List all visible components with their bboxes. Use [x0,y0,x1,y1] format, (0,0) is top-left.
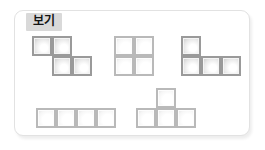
tetromino-cell [181,36,201,56]
tetromino-cell [52,36,72,56]
tetromino-cell [181,56,201,76]
tetromino-cell [32,36,52,56]
tetromino-cell [201,56,221,76]
tetromino-empty-cell [136,88,156,108]
tetromino-cell [56,108,76,128]
panel-tab-label: 보기 [26,13,62,31]
tetromino-cell [114,56,134,76]
tetromino-cell [76,108,96,128]
shape-s-tetromino [32,36,92,76]
tetromino-cell [221,56,241,76]
shape-j-tetromino [181,36,241,76]
tetromino-cell [134,36,154,56]
shape-t-tetromino [136,88,196,128]
diagram-canvas: 보기 [0,0,265,150]
tetromino-cell [136,108,156,128]
tetromino-cell [36,108,56,128]
tetromino-cell [176,108,196,128]
tetromino-cell [114,36,134,56]
shape-i-tetromino [36,108,116,128]
tetromino-cell [72,56,92,76]
tetromino-empty-cell [201,36,221,56]
tetromino-empty-cell [32,56,52,76]
shape-o-tetromino [114,36,154,76]
tetromino-cell [134,56,154,76]
tetromino-cell [52,56,72,76]
tetromino-empty-cell [72,36,92,56]
tetromino-cell [96,108,116,128]
tetromino-empty-cell [176,88,196,108]
tetromino-empty-cell [221,36,241,56]
tetromino-cell [156,108,176,128]
tetromino-cell [156,88,176,108]
